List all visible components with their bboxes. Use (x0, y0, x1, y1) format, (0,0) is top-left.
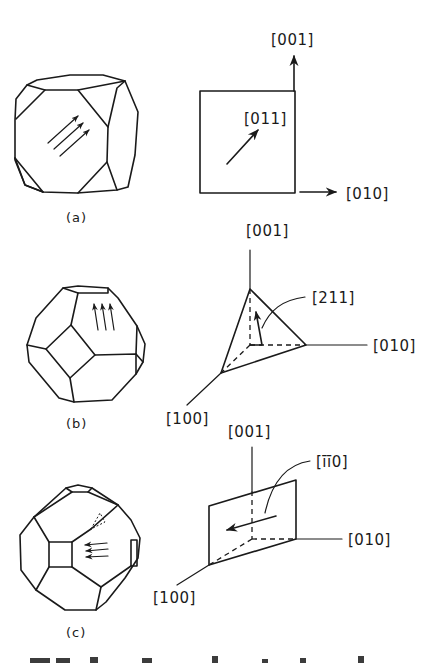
label-axis-001-b: [001] (246, 222, 289, 240)
panel-c: [001] [īī0] [010] [100] (c) (20, 423, 391, 640)
cut-off-caption-line (30, 656, 364, 663)
diagram-c-inclined-plane: [001] [īī0] [010] [100] (153, 423, 391, 607)
panel-b: [001] [211] [010] [100] (b) (27, 222, 416, 431)
slip-arrows-a (48, 116, 89, 156)
panel-a: [001] [010] [011] (a) (15, 31, 389, 225)
label-axis-010-b: [010] (373, 337, 416, 355)
caption-b: (b) (66, 416, 87, 431)
label-axis-001-a: [001] (271, 31, 314, 49)
slip-arrows-c (85, 543, 108, 557)
label-axis-100-c: [100] (153, 589, 196, 607)
direction-211-arrow (250, 312, 262, 345)
crystal-a-truncated-cube (15, 75, 138, 193)
label-axis-010-a: [010] (346, 185, 389, 203)
label-direction-110: [īī0] (316, 453, 348, 471)
diagram-b-tetrahedral-plane: [001] [211] [010] [100] (166, 222, 416, 428)
label-direction-211: [211] (312, 289, 355, 307)
caption-a: (a) (66, 210, 87, 225)
label-axis-100-b: [100] (166, 410, 209, 428)
label-axis-010-c: [010] (348, 531, 391, 549)
diagram-a-square-plane: [001] [010] [011] (200, 31, 389, 203)
direction-011-arrow (227, 130, 258, 164)
label-direction-011: [011] (244, 110, 287, 128)
axis-100-line-b (187, 373, 221, 405)
axis-100-line-c (177, 565, 209, 585)
crystal-c-truncated-octahedron (20, 485, 140, 610)
caption-c: (c) (66, 625, 86, 640)
slip-arrows-b (94, 304, 114, 330)
label-axis-001-c: [001] (228, 423, 271, 441)
crystal-b-truncated-octahedron (27, 286, 145, 402)
crystal-slip-figure: [001] [010] [011] (a) (0, 0, 433, 663)
